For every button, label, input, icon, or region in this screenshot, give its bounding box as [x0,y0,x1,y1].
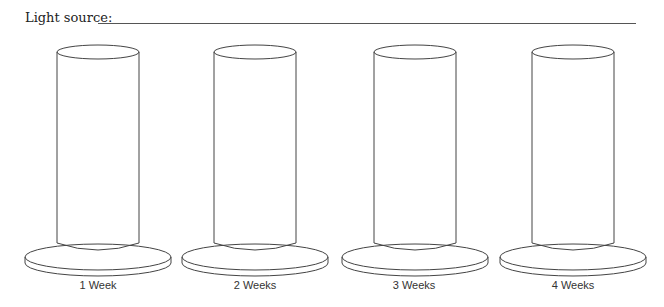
cylinder-label-4: 4 Weeks [523,279,623,291]
cylinder-label-1: 1 Week [48,279,148,291]
graduated-cylinder-2 [182,45,328,276]
cylinder-label-2: 2 Weeks [205,279,305,291]
graduated-cylinder-3 [342,45,488,276]
graduated-cylinder-1 [25,45,171,276]
graduated-cylinder-4 [500,45,646,276]
cylinders-drawing [0,0,664,307]
cylinder-label-3: 3 Weeks [364,279,464,291]
